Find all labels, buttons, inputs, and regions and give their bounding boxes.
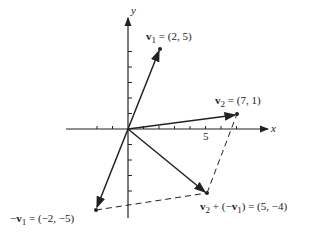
- y-axis-label: y: [131, 4, 136, 16]
- vector-neg-v1: [97, 129, 128, 207]
- x-axis-label: x: [271, 122, 276, 134]
- vector-v2-plus-neg-v1: [128, 129, 205, 192]
- dashed-right: [207, 114, 237, 193]
- label-neg-v1: −v1 = (−2, −5): [10, 212, 74, 227]
- tick-label-5: 5: [203, 130, 209, 142]
- vector-diagram: y x 5 v1 = (2, 5) v2 = (7, 1) −v1 = (−2,…: [0, 0, 334, 237]
- dashed-bottom: [96, 193, 207, 210]
- label-v2: v2 = (7, 1): [215, 94, 261, 109]
- vector-v1: [128, 51, 159, 129]
- label-v1: v1 = (2, 5): [146, 30, 192, 45]
- vector-v2: [128, 115, 235, 129]
- label-v2-plus-neg-v1: v2 + (−v1) = (5, −4): [200, 200, 287, 215]
